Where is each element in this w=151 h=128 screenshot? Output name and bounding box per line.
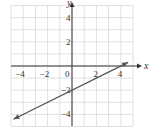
x-tick-label: −2 (40, 69, 50, 79)
x-axis-label: x (143, 60, 149, 71)
x-tick-label: 0 (65, 69, 70, 79)
x-tick-label: −4 (15, 69, 25, 79)
x-axis (11, 64, 142, 69)
y-tick-label: 4 (66, 13, 71, 23)
y-tick-label: −4 (61, 109, 71, 119)
y-tick-label: 2 (66, 37, 71, 47)
y-axis-label: y (66, 0, 72, 8)
coordinate-plane: x y −4−202442−2−4 (0, 0, 151, 128)
x-tick-label: 4 (118, 69, 123, 79)
data-line (13, 62, 128, 119)
